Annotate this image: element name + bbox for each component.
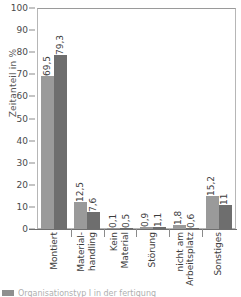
bar-value-label: 7,6 bbox=[89, 198, 98, 212]
y-tick-label: 40 bbox=[17, 136, 28, 146]
x-axis-baseline bbox=[29, 229, 237, 230]
bar-value-label: 0,6 bbox=[187, 213, 196, 227]
bar-group: 0,91,1 bbox=[136, 9, 169, 229]
bar-value-label: 0,5 bbox=[122, 214, 131, 228]
bar[interactable]: 69,5 bbox=[41, 76, 54, 229]
bar[interactable]: 0,5 bbox=[120, 228, 133, 229]
y-axis-ticks: 0102030405060708090100 bbox=[0, 0, 36, 232]
bar-groups: 69,579,312,57,60,10,50,91,11,80,615,211 bbox=[38, 9, 235, 229]
y-tick-label: 20 bbox=[17, 180, 28, 190]
y-tick-mark bbox=[29, 140, 35, 141]
bar[interactable]: 7,6 bbox=[87, 212, 100, 229]
bar-value-label: 0,1 bbox=[109, 214, 118, 228]
legend-label: Organisationstyp I in der fertigung bbox=[18, 289, 156, 297]
x-category-line: nicht am bbox=[176, 232, 185, 272]
x-category-line: Montiert bbox=[50, 232, 59, 270]
bar-value-label: 69,5 bbox=[43, 56, 52, 76]
x-category-line: Material bbox=[121, 232, 130, 269]
bar-value-label: 11 bbox=[220, 193, 229, 204]
y-tick-mark bbox=[29, 30, 35, 31]
x-category-label: Störung bbox=[136, 232, 169, 290]
x-category-label: Montiert bbox=[38, 232, 71, 290]
bar[interactable]: 1,8 bbox=[173, 225, 186, 229]
bar[interactable]: 12,5 bbox=[74, 202, 87, 230]
y-tick-label: 70 bbox=[17, 69, 28, 79]
y-tick-label: 80 bbox=[17, 47, 28, 57]
bar[interactable]: 15,2 bbox=[206, 196, 219, 229]
bar[interactable]: 11 bbox=[219, 205, 232, 229]
y-tick-label: 0 bbox=[22, 224, 28, 234]
x-category-line: Arbeitsplatz bbox=[186, 232, 195, 286]
y-tick-mark bbox=[29, 52, 35, 53]
bar[interactable]: 0,9 bbox=[140, 227, 153, 229]
y-tick-mark bbox=[29, 118, 35, 119]
y-tick-mark bbox=[29, 206, 35, 207]
y-tick-mark bbox=[29, 184, 35, 185]
x-category-line: Material- bbox=[77, 232, 86, 272]
x-category-label: Sonstiges bbox=[202, 232, 235, 290]
legend: Organisationstyp I in der fertigung bbox=[2, 289, 156, 297]
x-category-line: Sonstiges bbox=[214, 232, 223, 276]
bar-group: 69,579,3 bbox=[38, 9, 71, 229]
x-category-line: handling bbox=[88, 232, 97, 271]
y-tick-label: 90 bbox=[17, 25, 28, 35]
y-tick-label: 100 bbox=[11, 3, 28, 13]
x-category-line: Kein bbox=[110, 232, 119, 251]
y-tick-mark bbox=[29, 74, 35, 75]
x-category-label: Material-handling bbox=[71, 232, 104, 290]
bar-chart: Zeitanteil in % 0102030405060708090100 6… bbox=[0, 0, 241, 297]
bar-value-label: 0,9 bbox=[141, 213, 150, 227]
bar[interactable]: 0,6 bbox=[186, 228, 199, 229]
legend-swatch-icon bbox=[2, 290, 14, 296]
y-tick-label: 60 bbox=[17, 91, 28, 101]
x-category-line: Störung bbox=[148, 232, 157, 268]
y-tick-label: 50 bbox=[17, 114, 28, 124]
bar[interactable]: 1,1 bbox=[153, 227, 166, 229]
bar-group: 12,57,6 bbox=[71, 9, 104, 229]
bar-value-label: 1,8 bbox=[174, 211, 183, 225]
bar[interactable]: 0,1 bbox=[107, 228, 120, 229]
bar[interactable]: 79,3 bbox=[54, 55, 67, 229]
x-category-label: KeinMaterial bbox=[104, 232, 137, 290]
bar-value-label: 15,2 bbox=[207, 176, 216, 196]
x-category-label: nicht amArbeitsplatz bbox=[169, 232, 202, 290]
y-tick-label: 30 bbox=[17, 158, 28, 168]
bar-group: 15,211 bbox=[202, 9, 235, 229]
y-tick-mark bbox=[29, 162, 35, 163]
y-tick-mark bbox=[29, 8, 35, 9]
x-axis-labels: MontiertMaterial-handlingKeinMaterialStö… bbox=[38, 232, 235, 290]
bar-value-label: 12,5 bbox=[76, 181, 85, 201]
bar-value-label: 1,1 bbox=[154, 212, 163, 226]
bar-group: 1,80,6 bbox=[169, 9, 202, 229]
y-tick-label: 10 bbox=[17, 202, 28, 212]
y-tick-mark bbox=[29, 96, 35, 97]
bar-group: 0,10,5 bbox=[104, 9, 137, 229]
bar-value-label: 79,3 bbox=[56, 35, 65, 55]
